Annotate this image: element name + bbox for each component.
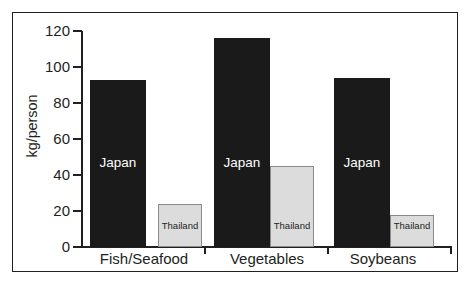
y-tick-label-120-wrap: 120 (0, 23, 70, 39)
y-tick-label-20-wrap: 20 (0, 203, 70, 219)
y-tick-label-40-wrap: 40 (0, 167, 70, 183)
y-tick-label-100-wrap: 100 (0, 59, 70, 75)
bar-label-japan-fish-seafood: Japan (90, 156, 146, 170)
y-tick-label-80: 80 (10, 95, 70, 110)
chart-screenshot: kg/person 120 100 80 60 40 20 (0, 0, 472, 285)
plot-area: Japan Thailand Japan Thailand Japan Thai… (81, 31, 452, 247)
y-tick-label-20: 20 (10, 203, 70, 218)
bar-japan-fish-seafood[interactable]: Japan (90, 80, 146, 247)
y-tick-label-60: 60 (10, 131, 70, 146)
y-tick-label-120: 120 (10, 23, 70, 38)
y-tick-label-0-wrap: 0 (0, 239, 70, 255)
bar-japan-vegetables[interactable]: Japan (214, 38, 270, 247)
bar-label-japan-vegetables: Japan (214, 156, 270, 170)
y-tick-label-0: 0 (10, 239, 70, 254)
x-axis-label-fish-seafood: Fish/Seafood (83, 250, 205, 267)
y-tick-label-80-wrap: 80 (0, 95, 70, 111)
bar-chart: kg/person 120 100 80 60 40 20 (0, 0, 472, 285)
x-tick-3 (450, 246, 452, 254)
bar-thailand-soybeans[interactable]: Thailand (390, 215, 434, 247)
y-tick-label-60-wrap: 60 (0, 131, 70, 147)
x-axis-label-soybeans: Soybeans (322, 250, 444, 267)
x-axis-label-vegetables: Vegetables (206, 250, 328, 267)
bar-label-thailand-vegetables: Thailand (271, 221, 313, 231)
bar-label-thailand-fish-seafood: Thailand (159, 221, 201, 231)
bar-label-japan-soybeans: Japan (334, 156, 390, 170)
bar-japan-soybeans[interactable]: Japan (334, 78, 390, 247)
y-axis-title: kg/person (24, 71, 40, 181)
y-tick-label-40: 40 (10, 167, 70, 182)
bar-label-thailand-soybeans: Thailand (391, 221, 433, 231)
bar-thailand-fish-seafood[interactable]: Thailand (158, 204, 202, 247)
y-tick-label-100: 100 (10, 59, 70, 74)
bar-thailand-vegetables[interactable]: Thailand (270, 166, 314, 247)
